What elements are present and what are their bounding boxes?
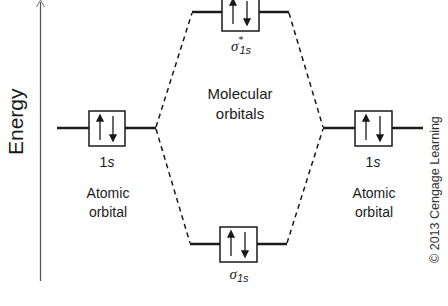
right-atomic-orbital-level <box>323 111 423 146</box>
bonding-orbital-level <box>190 227 287 262</box>
energy-axis-label: Energy <box>3 95 29 155</box>
sigma-subscript: 1s <box>237 272 249 284</box>
energy-axis <box>37 0 45 281</box>
bonding-orbital-label: σ1s <box>216 266 262 284</box>
right-desc-line2: orbital <box>334 203 414 222</box>
sigma-symbol: σ <box>229 266 236 282</box>
molecular-orbitals-line1: Molecular <box>190 84 290 104</box>
molecular-orbitals-line2: orbitals <box>190 104 290 124</box>
antibonding-orbital-label: σ*1s <box>218 34 264 56</box>
molecular-orbitals-label: Molecular orbitals <box>190 84 290 124</box>
left-atomic-orbital-level <box>57 111 156 146</box>
copyright-notice: © 2013 Cengage Learning <box>427 133 443 263</box>
right-orbital-label: 1s <box>353 154 393 170</box>
sigma-star-subscript: 1s <box>239 44 251 56</box>
left-desc-line1: Atomic <box>68 184 148 203</box>
left-orbital-letter: s <box>107 154 114 170</box>
left-orbital-label: 1s <box>87 154 127 170</box>
left-desc-line2: orbital <box>68 203 148 222</box>
right-atomic-orbital-desc: Atomic orbital <box>334 184 414 222</box>
right-orbital-letter: s <box>373 154 380 170</box>
right-desc-line1: Atomic <box>334 184 414 203</box>
left-atomic-orbital-desc: Atomic orbital <box>68 184 148 222</box>
antibonding-orbital-level <box>192 0 289 31</box>
